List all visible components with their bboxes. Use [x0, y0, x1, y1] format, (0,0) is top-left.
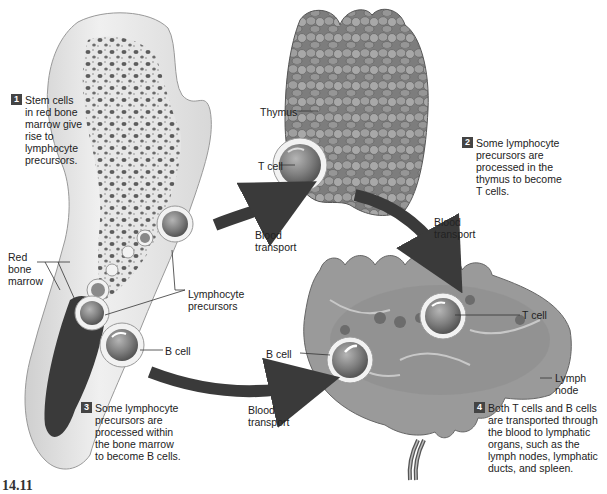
bone	[25, 13, 211, 469]
label-thymus: Thymus	[260, 106, 297, 118]
t-cell-node	[420, 293, 466, 339]
step-number-badge: 1	[11, 94, 22, 105]
label-t-cell-node: T cell	[522, 309, 547, 321]
step-text: Some lymphocyte precursors are processed…	[95, 402, 181, 462]
arrow-bone-to-thymus	[215, 198, 285, 225]
label-red-bone-marrow: Red bone marrow	[8, 251, 43, 287]
step-4: 4Both T cells and B cells are transporte…	[474, 402, 598, 474]
arrow-bone-to-node	[150, 372, 305, 391]
step-text: Both T cells and B cells are transported…	[488, 402, 598, 474]
step-2: 2Some lymphocyte precursors are processe…	[462, 137, 562, 197]
step-3: 3Some lymphocyte precursors are processe…	[81, 402, 181, 462]
b-cell-bone	[100, 323, 144, 367]
label-b-cell-bone: B cell	[165, 345, 191, 357]
label-blood-transport-3: Blood transport	[248, 404, 289, 428]
label-b-cell-node: B cell	[266, 348, 292, 360]
step-number-badge: 4	[474, 402, 485, 413]
step-text: Some lymphocyte precursors are processed…	[476, 137, 562, 197]
step-number-badge: 3	[81, 402, 92, 413]
step-1: 1Stem cells in red bone marrow give rise…	[11, 94, 82, 166]
label-t-cell-thymus: T cell	[258, 160, 283, 172]
label-lymph-node: Lymph node	[555, 372, 586, 396]
label-lymphocyte-precursors: Lymphocyte precursors	[188, 288, 244, 312]
step-text: Stem cells in red bone marrow give rise …	[25, 94, 82, 166]
step-number-badge: 2	[462, 137, 473, 148]
b-cell-node	[327, 337, 373, 383]
label-blood-transport-1: Blood transport	[255, 229, 296, 253]
figure-number: 14.11	[2, 478, 33, 494]
label-blood-transport-2: Blood transport	[434, 216, 475, 240]
